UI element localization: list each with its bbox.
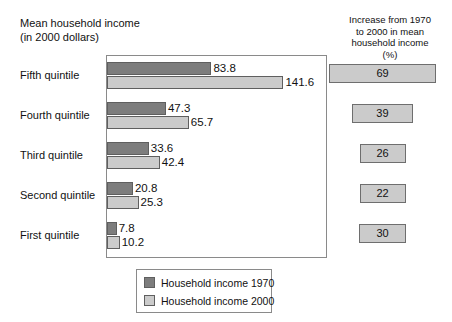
bar-2000: [107, 116, 189, 129]
bar-value-label: 141.6: [283, 75, 314, 89]
legend-swatch-1970-icon: [144, 277, 155, 288]
bar-value-label: 83.8: [211, 61, 235, 75]
percent-row: 30: [330, 220, 440, 254]
percent-row: 69: [330, 60, 440, 94]
category-label: Fifth quintile: [20, 69, 79, 82]
bar-value-label: 65.7: [189, 115, 213, 129]
bar-1970: [107, 62, 211, 75]
bar-value-label: 42.4: [160, 155, 184, 169]
legend-label-2000: Household income 2000: [161, 295, 274, 307]
percent-value-box: 22: [360, 184, 406, 203]
legend-label-1970: Household income 1970: [161, 277, 274, 289]
percent-value-box: 30: [359, 224, 406, 243]
percent-value-box: 39: [352, 104, 412, 123]
bar-1970: [107, 102, 166, 115]
bar-1970: [107, 142, 149, 155]
bar-2000: [107, 236, 120, 249]
bar-value-label: 10.2: [120, 235, 144, 249]
bar-2000: [107, 76, 283, 89]
percent-value-box: 26: [360, 144, 406, 163]
right-panel-title: Increase from 1970 to 2000 in mean house…: [330, 14, 450, 60]
percent-value-box: 69: [329, 64, 436, 83]
category-label: Third quintile: [20, 149, 83, 162]
legend-item-2000: Household income 2000: [144, 292, 271, 309]
bar-1970: [107, 222, 117, 235]
percent-row: 39: [330, 100, 440, 134]
bar-value-label: 33.6: [149, 141, 173, 155]
left-panel-title: Mean household income (in 2000 dollars): [20, 17, 140, 44]
category-label: Fourth quintile: [20, 109, 90, 122]
bar-value-label: 7.8: [117, 221, 135, 235]
bar-1970: [107, 182, 133, 195]
chart-figure: Mean household income (in 2000 dollars) …: [0, 0, 452, 322]
bar-value-label: 47.3: [166, 101, 190, 115]
percent-row: 22: [330, 180, 440, 214]
legend-item-1970: Household income 1970: [144, 274, 271, 291]
category-label: First quintile: [20, 229, 79, 242]
bar-value-label: 25.3: [139, 195, 163, 209]
bar-2000: [107, 196, 139, 209]
chart-legend: Household income 1970 Household income 2…: [136, 269, 272, 313]
bar-2000: [107, 156, 160, 169]
category-label: Second quintile: [20, 189, 95, 202]
bar-value-label: 20.8: [133, 181, 157, 195]
legend-swatch-2000-icon: [144, 295, 155, 306]
percent-row: 26: [330, 140, 440, 174]
